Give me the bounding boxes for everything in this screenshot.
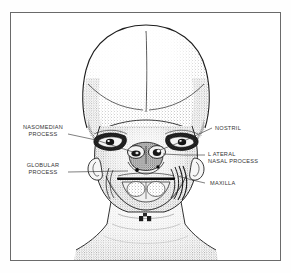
label-globular-process: GLOBULAR PROCESS bbox=[14, 162, 72, 176]
label-lateral-nasal-process-line2: NASAL PROCESS bbox=[208, 158, 258, 165]
label-nasomedian-process-line1: NASOMEDIAN bbox=[14, 124, 72, 131]
label-nostril-line1: NOSTRIL bbox=[215, 125, 241, 132]
label-nasomedian-process-line2: PROCESS bbox=[14, 131, 72, 138]
label-lateral-nasal-process: L ATERAL NASAL PROCESS bbox=[208, 151, 258, 165]
label-globular-process-line2: PROCESS bbox=[14, 169, 72, 176]
ear-right-of-image bbox=[190, 158, 204, 180]
label-maxilla-line1: MAXILLA bbox=[210, 180, 235, 187]
label-globular-process-line1: GLOBULAR bbox=[14, 162, 72, 169]
label-lateral-nasal-process-line1: L ATERAL bbox=[208, 151, 258, 158]
figure-page: NASOMEDIAN PROCESS GLOBULAR PROCESS NOST… bbox=[0, 0, 291, 273]
ear-left-of-image bbox=[88, 158, 102, 180]
label-nasomedian-process: NASOMEDIAN PROCESS bbox=[14, 124, 72, 138]
label-nostril: NOSTRIL bbox=[215, 125, 241, 132]
label-maxilla: MAXILLA bbox=[210, 180, 235, 187]
